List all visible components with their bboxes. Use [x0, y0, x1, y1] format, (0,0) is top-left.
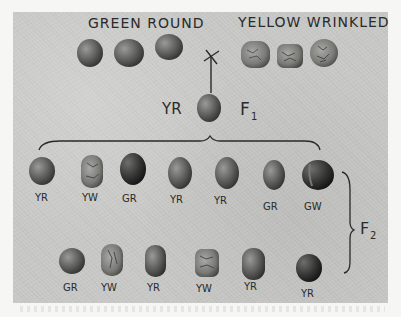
f2-row-2 [59, 244, 322, 282]
f1-generation-label: F [240, 99, 250, 119]
pea-yellow-wrinkled [277, 44, 303, 68]
f2-label: YR [300, 288, 314, 299]
f2-label: YR [213, 195, 227, 206]
pea-green-round [77, 39, 103, 67]
pea-f2 [263, 160, 285, 190]
f2-row-1 [29, 153, 334, 190]
f2-label: GR [263, 201, 278, 212]
f2-label: YR [169, 194, 183, 205]
f2-label: GR [63, 282, 78, 293]
pea-f2 [29, 157, 55, 185]
pea-f2 [215, 157, 239, 189]
pea-f2 [296, 254, 322, 282]
pea-f2 [120, 153, 146, 185]
pea-f2 [242, 248, 265, 280]
f2-label: YR [34, 192, 48, 203]
f2-generation-subscript: 2 [370, 230, 376, 241]
f1-genotype-label: YR [161, 100, 182, 118]
label-yellow-wrinkled: YELLOW WRINKLED [237, 14, 390, 30]
pea-f2 [81, 155, 103, 188]
pea-green-round [114, 39, 144, 67]
pea-yellow-wrinkled [310, 39, 338, 67]
f2-label: YW [81, 192, 98, 203]
f2-label: GR [122, 193, 137, 204]
pea-cross-figure: GREEN ROUND YELLOW WRINKLED YR F 1 [0, 0, 401, 317]
f2-label: YR [243, 281, 257, 292]
pea-f2 [195, 249, 219, 277]
f2-label: YW [195, 283, 212, 294]
pea-f2 [302, 160, 334, 190]
pea-f1 [197, 94, 221, 122]
illegible-caption-bleed [20, 306, 385, 312]
f2-brace-horizontal [39, 136, 320, 150]
f2-label: YR [146, 282, 160, 293]
label-green-round: GREEN ROUND [88, 15, 204, 31]
pea-f2 [168, 157, 192, 189]
f2-brace-vertical [342, 172, 354, 273]
f1-generation-subscript: 1 [251, 111, 257, 122]
parent-green-round-peas [77, 34, 183, 67]
pea-f2 [59, 248, 85, 274]
parent-yellow-wrinkled-peas [241, 39, 338, 68]
pea-green-round [155, 34, 183, 60]
f2-generation-label: F [360, 219, 369, 238]
f2-label: GW [304, 201, 322, 212]
f2-label: YW [100, 282, 117, 293]
pea-f2 [145, 245, 166, 277]
cross-arrow-icon [204, 50, 219, 93]
pea-yellow-wrinkled [241, 41, 270, 68]
